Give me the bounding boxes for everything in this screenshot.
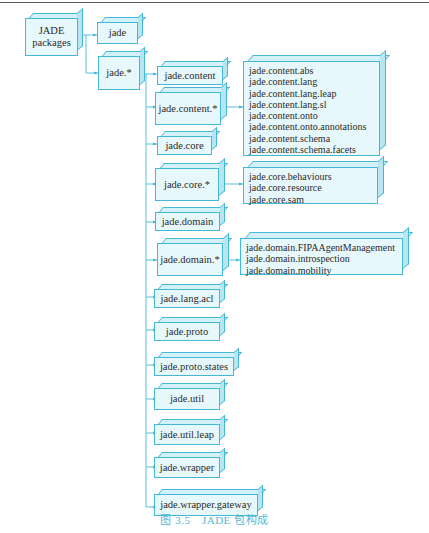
figure-caption: 图 3.5 JADE 包构成 bbox=[0, 511, 429, 527]
package-label: jade.content.* bbox=[156, 93, 220, 124]
list-item: jade.core.behaviours bbox=[249, 171, 332, 182]
list-item: jade.content.abs bbox=[249, 65, 366, 76]
package-label: jade.core bbox=[158, 137, 211, 154]
subpackage-box-core: jade.core.behaviours jade.core.resource … bbox=[243, 161, 384, 204]
list-item: jade.core.resource bbox=[249, 182, 332, 193]
package-box-jade-domain: jade.domain bbox=[155, 207, 225, 231]
package-box-jade: jade bbox=[97, 17, 143, 44]
root-label-line1: JADE bbox=[32, 25, 70, 37]
package-label: jade bbox=[98, 23, 137, 43]
list-item: jade.content.onto bbox=[249, 110, 366, 121]
package-label: jade.* bbox=[99, 57, 139, 89]
list-item: jade.content.lang.sl bbox=[249, 99, 366, 110]
package-box-jade-util: jade.util bbox=[154, 383, 225, 410]
package-label: jade.proto bbox=[155, 323, 219, 340]
list-item: jade.core.sam bbox=[249, 194, 332, 205]
package-box-jade-content-star: jade.content.* bbox=[155, 87, 227, 125]
package-box-jade-domain-star: jade.domain.* bbox=[157, 238, 229, 276]
package-label: jade.util bbox=[155, 389, 219, 409]
subpackage-list: jade.core.behaviours jade.core.resource … bbox=[249, 171, 332, 205]
root-label-line2: packages bbox=[32, 37, 70, 49]
package-label: jade.wrapper bbox=[155, 458, 219, 477]
list-item: jade.content.schema.facets bbox=[249, 144, 366, 155]
subpackage-list: jade.domain.FIPAAgentManagement jade.dom… bbox=[246, 242, 395, 276]
package-box-jade-core: jade.core bbox=[157, 131, 217, 155]
package-box-jade-lang-acl: jade.lang.acl bbox=[154, 284, 225, 308]
package-label: jade.domain.* bbox=[158, 244, 222, 275]
list-item: jade.domain.FIPAAgentManagement bbox=[246, 242, 395, 253]
package-box-jade-wrapper: jade.wrapper bbox=[154, 452, 225, 478]
package-label: jade.core.* bbox=[156, 169, 218, 200]
package-box-jade-proto: jade.proto bbox=[154, 317, 225, 341]
package-label: jade.proto.states bbox=[155, 358, 233, 375]
package-label: jade.domain bbox=[156, 213, 219, 230]
package-box-jade-core-star: jade.core.* bbox=[155, 163, 225, 201]
package-label: jade.lang.acl bbox=[155, 290, 219, 307]
list-item: jade.domain.introspection bbox=[246, 253, 395, 264]
package-box-jade-star: jade.* bbox=[98, 51, 145, 90]
subpackage-box-domain: jade.domain.FIPAAgentManagement jade.dom… bbox=[240, 232, 409, 275]
list-item: jade.content.schema bbox=[249, 133, 366, 144]
package-label: jade.util.leap bbox=[155, 425, 219, 444]
list-item: jade.content.lang.leap bbox=[249, 88, 366, 99]
list-item: jade.content.onto.annotations bbox=[249, 121, 366, 132]
subpackage-box-content: jade.content.abs jade.content.lang jade.… bbox=[243, 55, 386, 156]
package-box-jade-content: jade.content bbox=[157, 61, 228, 85]
list-item: jade.content.lang bbox=[249, 76, 366, 87]
package-label: jade.content bbox=[158, 67, 222, 84]
package-box-jade-util-leap: jade.util.leap bbox=[154, 419, 225, 445]
list-item: jade.domain.mobility bbox=[246, 265, 395, 276]
root-box-jade-packages: JADE packages bbox=[25, 13, 83, 56]
subpackage-list: jade.content.abs jade.content.lang jade.… bbox=[249, 65, 366, 155]
package-box-jade-proto-states: jade.proto.states bbox=[154, 352, 239, 376]
